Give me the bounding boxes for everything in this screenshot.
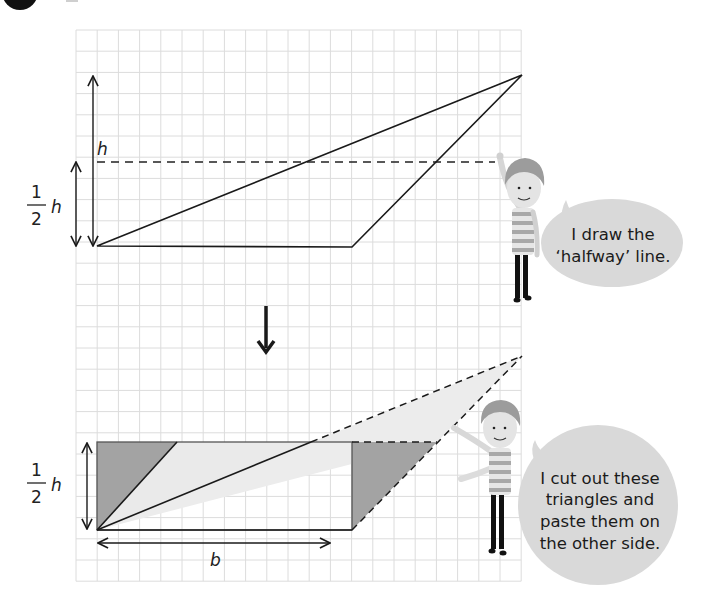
base-label: b [210, 550, 221, 570]
half-height-label: 1 2 h [27, 182, 62, 229]
svg-text:‘halfway’ line.: ‘halfway’ line. [556, 247, 671, 266]
svg-text:the other side.: the other side. [540, 534, 661, 553]
svg-text:paste them on: paste them on [540, 512, 660, 531]
svg-text:h: h [51, 475, 62, 495]
height-label: h [97, 139, 108, 159]
svg-text:triangles and: triangles and [546, 490, 655, 509]
child-character-pointing [454, 400, 520, 556]
svg-text:2: 2 [31, 209, 42, 229]
half-height-label-bottom: 1 2 h [27, 460, 62, 507]
area-of-triangle-diagram: h 1 2 h 1 [0, 0, 711, 604]
svg-text:1: 1 [31, 182, 42, 202]
svg-text:h: h [51, 197, 62, 217]
child-character-waving [497, 153, 545, 303]
down-arrow-icon [258, 306, 274, 352]
step-number-circle-icon [2, 0, 38, 10]
svg-text:2: 2 [31, 487, 42, 507]
speech-bubble-halfway: I draw the ‘halfway’ line. [541, 199, 683, 287]
svg-text:1: 1 [31, 460, 42, 480]
svg-text:I cut out these: I cut out these [540, 469, 659, 488]
speech-bubble-cut-triangles: I cut out these triangles and paste them… [518, 425, 678, 585]
header-mark [66, 0, 78, 2]
bottom-diagram: 1 2 h b [27, 356, 522, 570]
svg-text:I draw the: I draw the [571, 225, 654, 244]
